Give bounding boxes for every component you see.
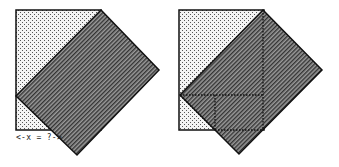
x-unknown-label: <-x = ?-> [16, 133, 62, 142]
right-figure [179, 10, 322, 154]
